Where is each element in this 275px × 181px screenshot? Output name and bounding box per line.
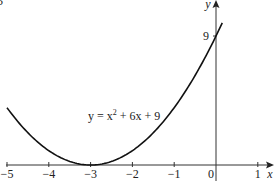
equation-label: y = x2 + 6x + 9: [88, 108, 160, 123]
y-axis-label: y: [204, 0, 211, 11]
x-tick-label: −5: [1, 167, 14, 181]
axes: [6, 0, 274, 181]
x-tick-label: 0: [208, 167, 214, 181]
x-tick-label: 1: [255, 167, 261, 181]
labels: xyy = x2 + 6x + 9: [88, 0, 273, 181]
parabola-curve: [7, 23, 222, 165]
x-tick-label: −3: [84, 167, 97, 181]
x-axis-label: x: [266, 167, 273, 181]
y-tick-label: 9: [203, 29, 209, 43]
x-axis-ticks: −5−4−3−2−1019: [1, 29, 261, 181]
x-tick-label: −1: [168, 167, 181, 181]
parabola-chart: −5−4−3−2−1019 xyy = x2 + 6x + 9: [0, 0, 275, 181]
x-tick-label: −4: [42, 167, 55, 181]
x-tick-label: −2: [126, 167, 139, 181]
parabola-path: [7, 23, 222, 165]
